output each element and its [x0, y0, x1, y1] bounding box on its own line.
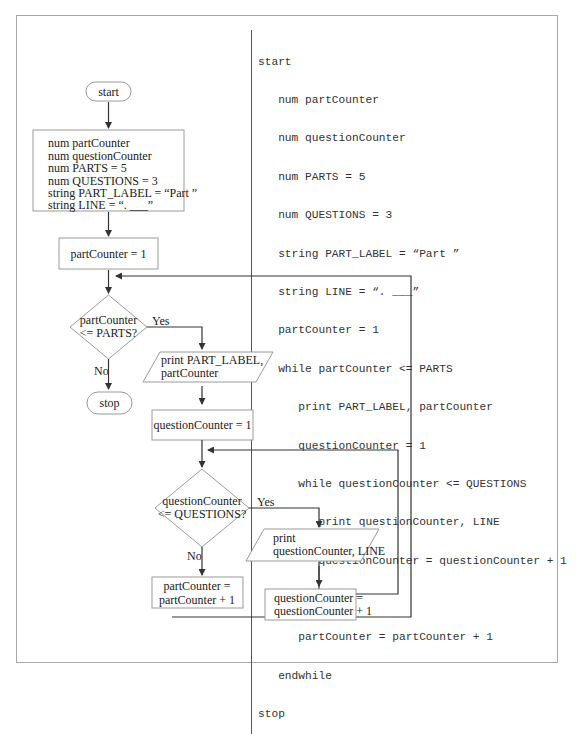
print-question-io: print questionCounter, LINE	[246, 529, 385, 561]
init-part-counter-box: partCounter = 1	[59, 238, 158, 269]
inner-loop-return-line	[208, 450, 398, 594]
io-line: print	[273, 531, 296, 545]
yes-label: Yes	[152, 314, 170, 328]
question-decision-diamond: questionCounter <= QUESTIONS?	[155, 469, 249, 547]
decision-line: <= QUESTIONS?	[158, 507, 247, 521]
stop-label: stop	[99, 396, 119, 410]
no-label: No	[94, 364, 109, 378]
increment-line: questionCounter + 1	[274, 604, 372, 618]
yes-arrow	[147, 327, 202, 349]
stop-terminal: stop	[87, 392, 132, 414]
io-line: questionCounter, LINE	[273, 544, 385, 558]
io-line: print PART_LABEL,	[161, 353, 263, 367]
code-line: stop	[258, 708, 567, 721]
decision-line: partCounter	[80, 313, 137, 327]
decision-line: questionCounter	[162, 494, 241, 508]
declarations-box: num partCounter num questionCounter num …	[33, 130, 197, 212]
init-question-counter-box: questionCounter = 1	[152, 410, 253, 440]
increment-question-counter-box: questionCounter = questionCounter + 1	[265, 589, 372, 620]
print-part-label-io: print PART_LABEL, partCounter	[143, 352, 273, 382]
increment-line: partCounter =	[163, 579, 230, 593]
yes-arrow	[249, 508, 319, 527]
start-label: start	[98, 85, 119, 99]
increment-line: partCounter + 1	[159, 593, 235, 607]
declaration-line: string LINE = “. ___”	[48, 198, 153, 212]
no-label: No	[187, 549, 202, 563]
increment-line: questionCounter =	[274, 591, 363, 605]
part-decision-diamond: partCounter <= PARTS?	[70, 295, 147, 359]
start-terminal: start	[86, 82, 131, 101]
io-line: partCounter	[161, 366, 218, 380]
decision-line: <= PARTS?	[80, 326, 137, 340]
init-question-label: questionCounter = 1	[153, 418, 251, 432]
init-part-label: partCounter = 1	[70, 247, 146, 261]
yes-label: Yes	[257, 495, 275, 509]
increment-part-counter-box: partCounter = partCounter + 1	[152, 577, 243, 608]
